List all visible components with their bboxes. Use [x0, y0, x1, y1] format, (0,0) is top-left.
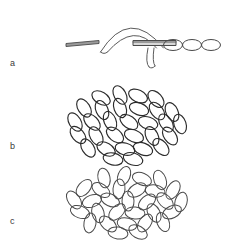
- arch-left-foot: [101, 52, 108, 54]
- aligned-particle-27: [150, 136, 172, 159]
- aligned-particle-7: [128, 100, 151, 118]
- panel-label-a: a: [10, 59, 15, 68]
- random-particle-26: [134, 211, 155, 234]
- panel-c-random-cluster: [63, 164, 189, 241]
- random-particle-0: [96, 167, 112, 189]
- random-particle-4: [73, 176, 95, 199]
- panel-label-c: c: [10, 217, 15, 226]
- aligned-particle-0: [89, 88, 112, 108]
- particle-face-on-1: [183, 40, 202, 51]
- random-particle-23: [82, 212, 97, 234]
- panel-a-drawing: [66, 28, 221, 68]
- cross-rod-shape: [133, 41, 176, 46]
- figure-canvas: [0, 0, 232, 241]
- aligned-particle-29: [122, 150, 145, 168]
- rod-edge-on-shape: [66, 41, 99, 47]
- random-particle-17: [69, 203, 92, 221]
- aligned-particle-14: [137, 114, 160, 132]
- random-particle-9: [163, 178, 183, 201]
- random-particle-6: [112, 179, 126, 200]
- panel-b-aligned-cluster: [65, 83, 189, 167]
- random-particle-28: [107, 226, 128, 241]
- figure-root: a b c: [0, 0, 232, 241]
- random-particle-10: [63, 188, 84, 211]
- tail-outer-contour: [147, 48, 149, 67]
- tail-inner-contour: [153, 48, 155, 66]
- panel-label-b: b: [10, 142, 15, 151]
- particle-face-on-2: [202, 40, 221, 51]
- tail-end-cap: [149, 66, 155, 68]
- aligned-particle-9: [162, 100, 181, 123]
- aligned-particle-17: [67, 123, 89, 146]
- aligned-particle-23: [78, 136, 99, 159]
- aligned-particle-11: [81, 111, 104, 134]
- aligned-particle-3: [145, 88, 167, 111]
- random-particle-3: [151, 169, 169, 192]
